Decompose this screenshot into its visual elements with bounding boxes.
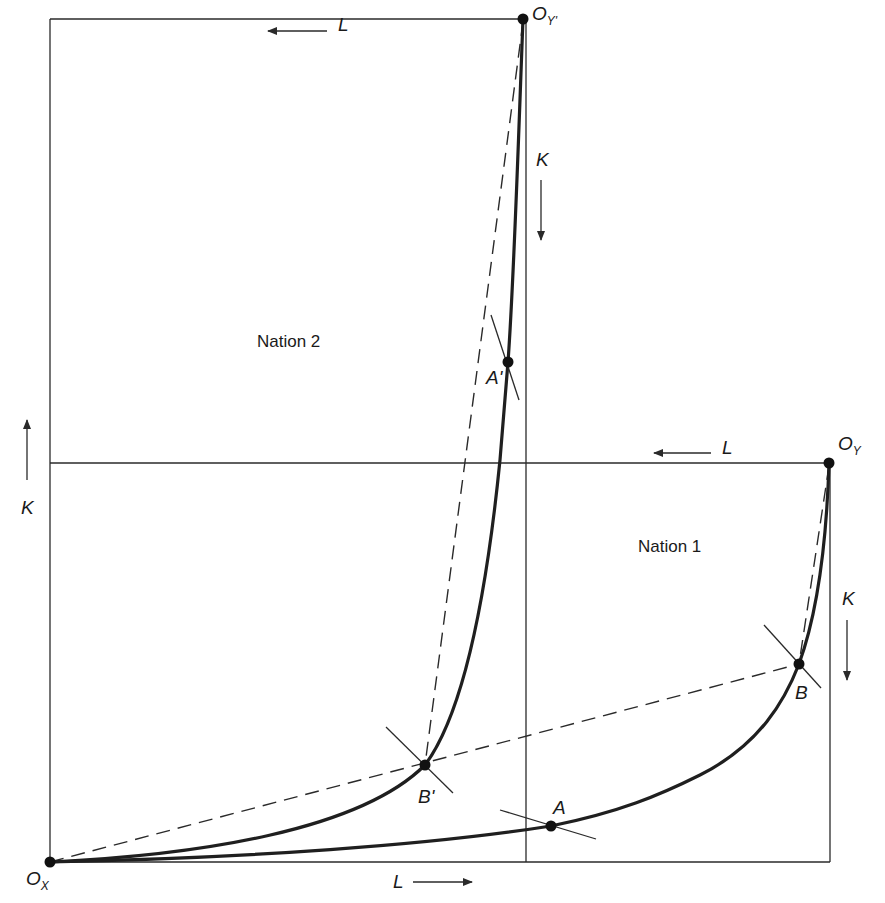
point-a-label: A	[553, 798, 566, 817]
nation2-contract-curve	[50, 19, 523, 862]
origin-y-label: OY	[838, 434, 861, 453]
point-origin-x	[45, 857, 56, 868]
point-b	[794, 659, 805, 670]
point-b-label: B	[795, 683, 808, 702]
axis-label-l-top: L	[338, 15, 349, 34]
origin-x-main: O	[26, 868, 41, 889]
point-a	[546, 821, 557, 832]
axis-label-l-mid: L	[722, 438, 733, 457]
dashed-ray-oy-to-b	[799, 466, 829, 664]
tangent-lines	[386, 315, 821, 839]
origin-y-main: O	[838, 433, 853, 454]
edgeworth-box-diagram	[0, 0, 885, 903]
point-a-prime-label: A'	[486, 368, 502, 387]
dashed-ray-lines	[50, 22, 829, 862]
nation1-box	[50, 463, 830, 862]
origin-y-prime-main: O	[532, 3, 547, 24]
axis-label-k-left: K	[21, 498, 34, 517]
nation1-contract-curve	[50, 463, 829, 862]
origin-x-label: OX	[26, 869, 49, 888]
origin-y-prime-sub: Y'	[547, 14, 557, 28]
axis-label-k-upper-right: K	[536, 150, 549, 169]
point-origin-y-prime	[518, 14, 529, 25]
axis-label-k-lower-right: K	[842, 589, 855, 608]
point-b-prime	[420, 760, 431, 771]
axis-label-l-bottom: L	[393, 872, 404, 891]
origin-y-sub: Y	[853, 444, 861, 458]
point-a-prime	[503, 357, 514, 368]
nation2-box	[50, 19, 526, 862]
nation2-label: Nation 2	[257, 333, 320, 350]
origin-x-sub: X	[41, 879, 49, 893]
dashed-ray-oyprime-to-bprime	[425, 22, 523, 765]
origin-y-prime-label: OY'	[532, 4, 557, 23]
point-origin-y	[824, 458, 835, 469]
point-b-prime-label: B'	[418, 787, 434, 806]
nation1-label: Nation 1	[638, 538, 701, 555]
